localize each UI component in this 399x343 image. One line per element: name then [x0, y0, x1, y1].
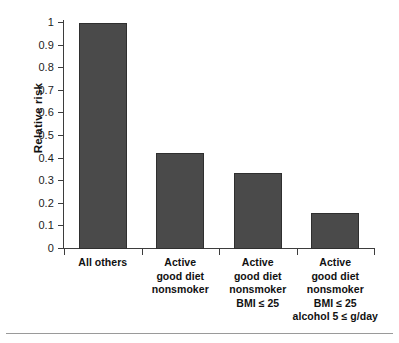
bar-active-good-diet-nonsmoker-bmi-alcohol[interactable]: [311, 213, 359, 249]
x-category-label: Activegood dietnonsmokerBMI ≤ 25alcohol …: [289, 256, 383, 324]
y-tick-label: 0: [48, 242, 54, 254]
x-tick-mark: [219, 249, 220, 255]
bar-all-others[interactable]: [79, 23, 127, 249]
bottom-divider: [6, 333, 393, 334]
x-category-label-line: Active: [289, 256, 383, 270]
bar-chart-figure: 1 0.9 0.8 0.7 0.6 0.5 0.4 0.3 0.2 0.1 0 …: [0, 0, 399, 343]
bar-active-good-diet-nonsmoker-bmi[interactable]: [234, 173, 282, 249]
y-axis-title: Relative risk: [32, 58, 44, 178]
y-tick-label: 1: [48, 16, 54, 28]
x-tick-mark: [142, 249, 143, 255]
bar-active-good-diet-nonsmoker[interactable]: [156, 153, 204, 249]
y-tick-label: 0.9: [38, 39, 54, 51]
x-tick-mark: [64, 249, 65, 255]
y-tick-label: 0.2: [38, 197, 54, 209]
x-category-label-line: good diet: [289, 270, 383, 284]
x-category-label-line: nonsmoker: [289, 283, 383, 297]
bars-layer: [64, 22, 375, 249]
y-tick-label: 0.1: [38, 219, 54, 231]
y-axis-tick-labels: 1 0.9 0.8 0.7 0.6 0.5 0.4 0.3 0.2 0.1 0: [0, 0, 56, 343]
x-axis-category-labels: All others Activegood dietnonsmoker Acti…: [64, 256, 375, 336]
x-tick-mark: [297, 249, 298, 255]
x-category-label-line: BMI ≤ 25: [289, 297, 383, 311]
x-category-label-line: alcohol 5 ≤ g/day: [289, 310, 383, 324]
x-tick-mark: [374, 249, 375, 255]
